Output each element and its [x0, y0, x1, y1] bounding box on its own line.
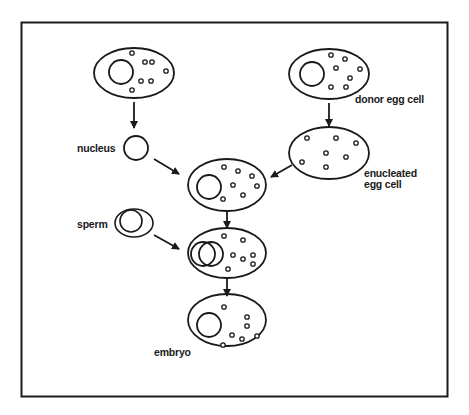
arrow-sperm-to-cell [154, 235, 179, 249]
isolated-nucleus [124, 136, 148, 160]
reconstructed-cell [188, 159, 266, 211]
cell-nucleus [109, 60, 133, 84]
label-sperm: sperm [77, 218, 108, 230]
body-cell [94, 48, 174, 98]
donor-egg-cell [289, 49, 369, 99]
fertilized-cell [188, 228, 266, 278]
enucleated-egg-cell [289, 127, 369, 179]
label-nucleus: nucleus [77, 142, 116, 154]
arrow-nucleus-to-cell [154, 159, 179, 174]
label-donor-egg-cell: donor egg cell [355, 93, 424, 105]
embryo [188, 294, 266, 347]
sperm [115, 209, 153, 237]
cell-nucleus [300, 62, 324, 86]
cloning-diagram: donor egg cell nucleus enucleated egg ce… [0, 0, 469, 415]
arrow-enucleated-to-cell [271, 165, 292, 177]
cell-nucleus [197, 175, 221, 199]
diagram-frame [22, 23, 448, 397]
label-embryo: embryo [154, 346, 191, 358]
label-egg-cell: egg cell [364, 178, 402, 190]
cell-nucleus [197, 313, 221, 337]
